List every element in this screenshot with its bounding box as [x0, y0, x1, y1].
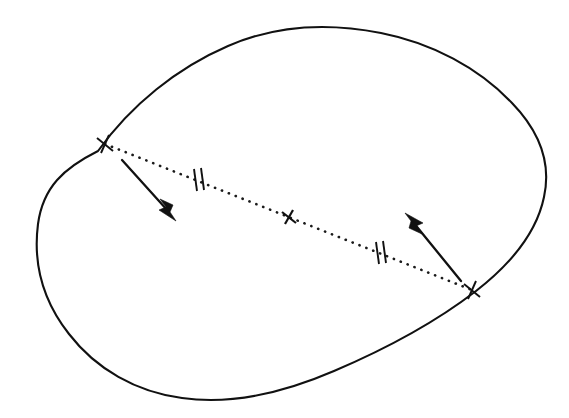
figure-root: Hand-drawn style ellipse with a dotted c…: [0, 0, 569, 418]
arrow-right-shaft: [413, 222, 461, 281]
hatch-mark-upper-left: [194, 168, 204, 191]
hatch-lower-right-stroke-2: [383, 241, 386, 263]
chord-midpoint-cross: [282, 210, 296, 224]
hatch-upper-left-stroke-2: [201, 168, 204, 190]
ellipse-diagram-canvas: [0, 0, 569, 418]
hatch-lower-right-stroke-1: [376, 242, 379, 264]
midpoint-stroke-b: [285, 210, 293, 224]
arrow-left-shaft: [122, 160, 168, 211]
arrow-right-inward: [405, 213, 461, 281]
